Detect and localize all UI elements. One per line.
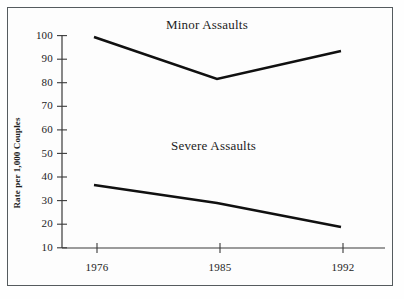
y-tick-label-60: 60: [25, 124, 53, 135]
y-tick-label-80: 80: [25, 77, 53, 88]
y-tick-label-90: 90: [25, 53, 53, 64]
series-line-severe-assaults: [94, 185, 341, 227]
x-tick-label-1992: 1992: [313, 262, 373, 273]
y-axis-label: Rate per 1,000 Couples: [12, 108, 22, 218]
x-tick-label-1985: 1985: [190, 262, 250, 273]
series-line-minor-assaults: [94, 37, 341, 79]
y-tick-label-30: 30: [25, 195, 53, 206]
y-tick-label-50: 50: [25, 148, 53, 159]
y-tick-label-10: 10: [25, 242, 53, 253]
series-annotation-severe-assaults: Severe Assaults: [171, 138, 256, 154]
chart-figure: 100 90 80 70 60 50 40 30 20 10 1976 1985…: [0, 0, 404, 299]
y-tick-label-100: 100: [25, 30, 53, 41]
y-tick-label-40: 40: [25, 171, 53, 182]
x-tick-label-1976: 1976: [67, 262, 127, 273]
y-tick-label-70: 70: [25, 100, 53, 111]
y-tick-label-20: 20: [25, 218, 53, 229]
series-annotation-minor-assaults: Minor Assaults: [166, 17, 248, 33]
